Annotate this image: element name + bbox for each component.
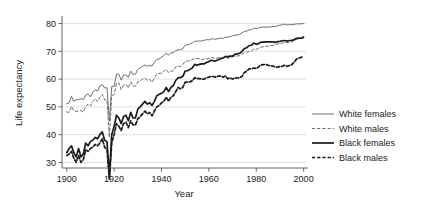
y-tick-label: 50 [46, 102, 56, 112]
y-tick-label: 70 [46, 47, 56, 57]
x-tick-label: 1940 [151, 174, 171, 184]
x-tick-label: 1980 [246, 174, 266, 184]
x-axis-title: Year [174, 188, 193, 199]
y-tick-label: 40 [46, 130, 56, 140]
legend-label: White males [339, 124, 389, 134]
x-tick-label: 1900 [57, 174, 77, 184]
life-expectancy-chart: 190019201940196019802000 304050607080 Ye… [0, 0, 422, 210]
y-tick-label: 30 [46, 158, 56, 168]
legend-label: White females [339, 109, 397, 119]
legend-label: Black males [339, 153, 388, 163]
legend-label: Black females [339, 138, 396, 148]
x-tick-label: 1960 [199, 174, 219, 184]
y-tick-label: 80 [46, 19, 56, 29]
x-tick-label: 2000 [294, 174, 314, 184]
y-axis-title: Life expectancy [13, 60, 24, 126]
y-tick-label: 60 [46, 74, 56, 84]
x-tick-label: 1920 [104, 174, 124, 184]
